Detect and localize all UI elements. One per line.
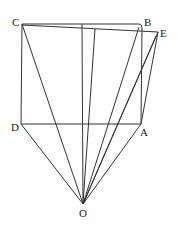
segment-vertical-center [82, 24, 83, 204]
label-a: A [140, 126, 148, 138]
segment-eo-2 [83, 36, 156, 204]
corner-b-curve [139, 24, 142, 28]
segment-ea [141, 32, 158, 124]
label-c: C [12, 16, 19, 28]
segment-co [22, 24, 83, 204]
geometry-diagram: C B E D A O [0, 0, 183, 232]
label-b: B [144, 16, 151, 28]
segment-inner [83, 29, 95, 204]
segment-cd [21, 24, 22, 124]
segment-bo [83, 27, 139, 204]
segment-do [21, 124, 83, 204]
label-d: D [11, 121, 19, 133]
segment-ba [141, 28, 142, 124]
label-o: O [79, 207, 87, 219]
segment-ao [83, 124, 141, 204]
label-e: E [160, 27, 167, 39]
